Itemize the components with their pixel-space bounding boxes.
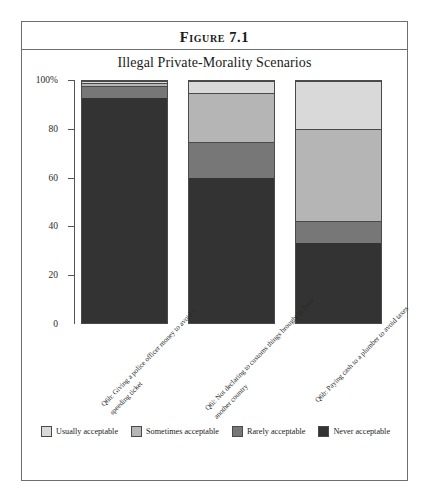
stacked-bar[interactable] (188, 80, 275, 324)
legend-label: Never acceptable (333, 427, 390, 436)
bar-segment[interactable] (82, 86, 167, 98)
figure-title: Figure 7.1 (22, 22, 407, 49)
x-axis-category-labels: Q6h: Giving a police officer money to av… (75, 326, 395, 431)
legend-swatch (318, 426, 329, 437)
legend-item[interactable]: Sometimes acceptable (131, 426, 219, 437)
title-block: Figure 7.1 Illegal Private-Morality Scen… (22, 22, 407, 75)
plot-area: 020406080100% Q6h: Giving a police offic… (22, 80, 409, 370)
y-tick-label: 80 (49, 124, 59, 134)
legend-label: Sometimes acceptable (146, 427, 219, 436)
legend-label: Rarely acceptable (247, 427, 305, 436)
legend-item[interactable]: Never acceptable (318, 426, 390, 437)
y-axis-top-cap (68, 80, 75, 81)
y-tick-mark (68, 178, 74, 179)
bar-segment[interactable] (296, 81, 381, 129)
bar-segment[interactable] (82, 98, 167, 323)
bar-segment[interactable] (296, 129, 381, 221)
y-tick-label: 20 (49, 270, 59, 280)
bar-segment[interactable] (189, 93, 274, 141)
y-tick-mark (68, 226, 74, 227)
stacked-bar[interactable] (81, 80, 168, 324)
legend-swatch (41, 426, 52, 437)
y-tick-label: 0 (53, 319, 58, 329)
legend-label: Usually acceptable (56, 427, 118, 436)
y-axis: 020406080100% (22, 80, 68, 324)
legend-item[interactable]: Usually acceptable (41, 426, 118, 437)
chart-legend: Usually acceptableSometimes acceptableRa… (22, 426, 409, 437)
bar-segment[interactable] (296, 221, 381, 243)
y-tick-label: 40 (49, 221, 59, 231)
bars-container (75, 80, 395, 324)
bar-segment[interactable] (189, 142, 274, 178)
legend-swatch (131, 426, 142, 437)
y-tick-mark (68, 275, 74, 276)
bar-segment[interactable] (189, 81, 274, 93)
figure-subtitle: Illegal Private-Morality Scenarios (22, 50, 407, 75)
stacked-bar[interactable] (295, 80, 382, 324)
y-tick-label: 60 (49, 173, 59, 183)
y-tick-label: 100% (36, 75, 58, 85)
figure-frame: Figure 7.1 Illegal Private-Morality Scen… (21, 21, 408, 481)
legend-swatch (232, 426, 243, 437)
legend-item[interactable]: Rarely acceptable (232, 426, 305, 437)
y-tick-mark (68, 129, 74, 130)
